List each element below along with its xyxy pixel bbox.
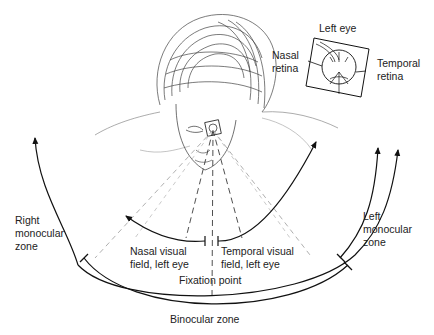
temporal-field-label-1: Temporal visual [221, 245, 294, 258]
head-illustration [95, 14, 338, 170]
fixation-point-label: Fixation point [179, 274, 241, 287]
right-monocular-arc [35, 138, 78, 265]
right-monocular-label-3: zone [15, 240, 38, 253]
right-monocular-label-2: monocular [15, 227, 64, 240]
right-monocular-label-1: Right [15, 214, 40, 227]
left-monocular-label-3: zone [363, 236, 386, 249]
inset-title: Left eye [319, 22, 356, 35]
left-eye-inset [306, 38, 369, 97]
nasal-retina-label-2: retina [272, 62, 298, 75]
nasal-retina-label-1: Nasal [272, 49, 299, 62]
temporal-field-arc [218, 142, 316, 241]
binocular-zone-label: Binocular zone [170, 313, 239, 326]
nasal-field-label-1: Nasal visual [130, 245, 187, 258]
temporal-retina-label-2: retina [377, 70, 403, 83]
nasal-field-arc [126, 216, 205, 241]
left-monocular-label-1: Left [363, 210, 381, 223]
temporal-retina-label-1: Temporal [377, 57, 420, 70]
left-monocular-label-2: monocular [363, 223, 412, 236]
temporal-field-label-2: field, left eye [221, 258, 280, 271]
visual-field-diagram: Left eye Nasal retina Temporal retina Ri… [0, 0, 434, 335]
nasal-field-label-2: field, left eye [130, 258, 189, 271]
